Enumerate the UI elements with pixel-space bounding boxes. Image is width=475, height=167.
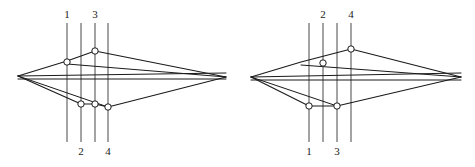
chord-4 xyxy=(251,77,337,106)
sweep-line-label-4: 4 xyxy=(105,145,111,157)
vertex-marker[interactable] xyxy=(105,104,111,110)
sweep-line-label-3: 3 xyxy=(92,8,98,20)
sweep-line-label-4: 4 xyxy=(348,8,354,20)
vertex-marker[interactable] xyxy=(320,60,326,66)
vertex-marker[interactable] xyxy=(306,103,312,109)
sweep-line-label-2: 2 xyxy=(320,8,326,20)
lower-chain xyxy=(18,76,226,107)
diagram-canvas: 12341234 xyxy=(0,0,475,167)
vertex-marker[interactable] xyxy=(334,103,340,109)
lower-chain xyxy=(251,77,461,106)
vertex-marker[interactable] xyxy=(92,48,98,54)
sweep-line-label-3: 3 xyxy=(334,145,340,157)
polygon-figure-left: 1234 xyxy=(18,8,226,157)
upper-chain xyxy=(251,49,461,77)
sweep-line-label-2: 2 xyxy=(78,145,84,157)
polygon-figure-right: 1234 xyxy=(251,8,461,157)
sweep-line-label-1: 1 xyxy=(64,8,70,20)
vertex-marker[interactable] xyxy=(348,46,354,52)
polygon-sweep-diagram: 12341234 xyxy=(0,0,475,167)
vertex-marker[interactable] xyxy=(92,101,98,107)
sweep-line-label-1: 1 xyxy=(306,145,312,157)
vertex-marker[interactable] xyxy=(78,101,84,107)
vertex-marker[interactable] xyxy=(64,59,70,65)
